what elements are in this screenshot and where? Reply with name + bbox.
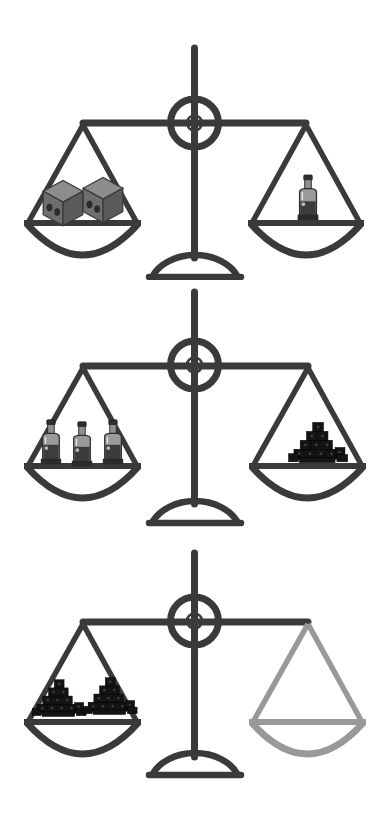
bottle-item	[41, 420, 61, 464]
bottle-item	[103, 420, 123, 464]
first-balance-scale	[0, 0, 389, 280]
scale-1-right-pan	[248, 125, 364, 255]
scale-3-graphic	[0, 545, 389, 820]
scale-2-left-items	[41, 420, 123, 466]
scale-1-graphic	[0, 0, 389, 280]
bottle-item	[298, 175, 319, 220]
scale-1-left-pan	[24, 125, 141, 255]
scale-1-right-items	[298, 175, 319, 220]
scale-3-right-pan-unknown	[249, 624, 366, 754]
third-balance-scale	[0, 545, 389, 820]
scale-2-left-pan	[24, 368, 141, 498]
coal-pile-item	[83, 678, 137, 715]
scale-2-right-pan	[249, 368, 366, 498]
second-balance-scale	[0, 272, 389, 544]
balance-puzzle-image	[0, 0, 389, 820]
bottle-item	[72, 422, 92, 466]
scale-2-graphic	[0, 272, 389, 544]
scale-1-left-items	[43, 178, 123, 226]
scale-3-left-pan	[24, 624, 141, 754]
